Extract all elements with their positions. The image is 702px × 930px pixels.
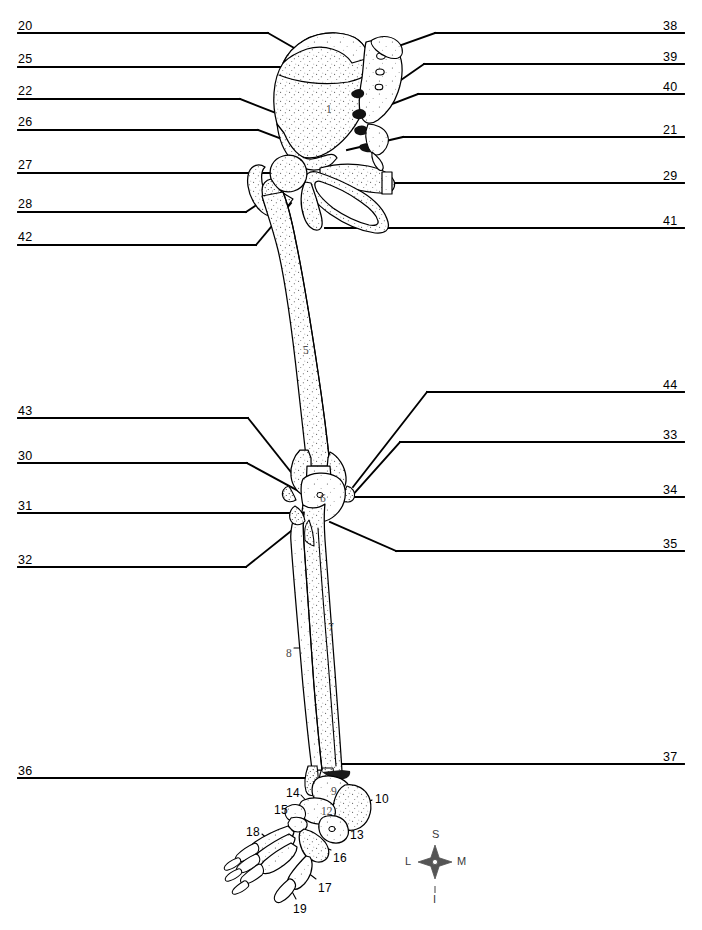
- label-number-26[interactable]: 26: [18, 116, 33, 129]
- label-number-42[interactable]: 42: [18, 231, 33, 244]
- label-number-22[interactable]: 22: [18, 85, 33, 98]
- foot-label-number-14[interactable]: 14: [286, 787, 300, 799]
- label-number-34[interactable]: 34: [663, 484, 678, 497]
- label-number-38[interactable]: 38: [663, 20, 678, 33]
- compass-label-inferior: I: [433, 894, 436, 905]
- bone-number-9: 9: [331, 786, 337, 798]
- label-number-20[interactable]: 20: [18, 20, 33, 33]
- foot-label-number-13[interactable]: 13: [350, 829, 364, 841]
- foot-label-number-17[interactable]: 17: [318, 882, 332, 894]
- label-number-35[interactable]: 35: [663, 538, 678, 551]
- label-number-40[interactable]: 40: [663, 81, 678, 94]
- bone-number-1: 1: [326, 104, 332, 116]
- label-number-21[interactable]: 21: [663, 124, 678, 137]
- bone-number-12: 12: [321, 806, 333, 818]
- leader-line-33: [351, 442, 400, 497]
- bone-number-6: 6: [320, 493, 326, 505]
- bone-number-7: 7: [328, 622, 334, 634]
- foot-label-number-16[interactable]: 16: [333, 852, 347, 864]
- label-number-43[interactable]: 43: [18, 405, 33, 418]
- leader-line-20: [268, 33, 296, 49]
- skeleton-illustration: [0, 0, 702, 930]
- label-number-28[interactable]: 28: [18, 198, 33, 211]
- label-number-31[interactable]: 31: [18, 500, 33, 513]
- leader-line-44: [353, 392, 427, 487]
- label-number-29[interactable]: 29: [663, 170, 678, 183]
- label-number-44[interactable]: 44: [663, 379, 678, 392]
- leader-line-32: [246, 527, 296, 567]
- foot-label-number-19[interactable]: 19: [293, 903, 307, 915]
- foot-label-number-10[interactable]: 10: [375, 793, 389, 805]
- bone-number-5: 5: [303, 345, 309, 357]
- label-number-25[interactable]: 25: [18, 53, 33, 66]
- leader-line-35: [330, 522, 396, 551]
- label-number-30[interactable]: 30: [18, 450, 33, 463]
- diagram-canvas: 202522262728424330313236 383940212941443…: [0, 0, 702, 930]
- label-number-37[interactable]: 37: [663, 751, 678, 764]
- compass-label-lateral: L: [405, 856, 411, 867]
- compass-label-superior: S: [432, 829, 439, 840]
- label-number-32[interactable]: 32: [18, 554, 33, 567]
- foot-label-number-15[interactable]: 15: [274, 804, 288, 816]
- foot-label-number-18[interactable]: 18: [246, 826, 260, 838]
- label-number-41[interactable]: 41: [663, 215, 678, 228]
- label-number-39[interactable]: 39: [663, 51, 678, 64]
- label-number-27[interactable]: 27: [18, 159, 33, 172]
- label-number-33[interactable]: 33: [663, 429, 678, 442]
- label-number-36[interactable]: 36: [18, 765, 33, 778]
- bone-number-8: 8: [286, 648, 292, 660]
- compass-label-medial: M: [457, 856, 466, 867]
